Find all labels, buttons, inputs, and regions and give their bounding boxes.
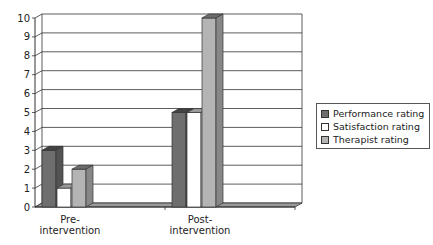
- x-axis-label: Pre-: [60, 214, 80, 225]
- svg-text:3: 3: [24, 145, 30, 156]
- y-axis-ticks: 012345678910: [17, 13, 35, 213]
- svg-text:0: 0: [24, 202, 30, 213]
- svg-text:5: 5: [24, 107, 30, 118]
- svg-text:9: 9: [24, 31, 30, 42]
- legend: Performance rating Satisfaction rating T…: [316, 103, 430, 149]
- legend-label: Therapist rating: [333, 134, 409, 145]
- svg-text:1: 1: [24, 183, 30, 194]
- svg-text:10: 10: [17, 13, 30, 24]
- svg-text:8: 8: [24, 50, 30, 61]
- svg-text:6: 6: [24, 88, 30, 99]
- legend-item-satisfaction: Satisfaction rating: [321, 120, 425, 133]
- x-axis-label: intervention: [40, 225, 101, 236]
- legend-swatch-icon: [321, 136, 329, 144]
- legend-label: Satisfaction rating: [333, 121, 420, 132]
- svg-text:2: 2: [24, 164, 30, 175]
- x-axis-label: Post-: [188, 214, 213, 225]
- x-axis-label: intervention: [170, 225, 231, 236]
- legend-item-therapist: Therapist rating: [321, 133, 425, 146]
- x-axis-labels: Pre-interventionPost-intervention: [40, 214, 231, 236]
- legend-swatch-icon: [321, 123, 329, 131]
- bar: [202, 14, 223, 207]
- svg-text:4: 4: [24, 126, 30, 137]
- legend-swatch-icon: [321, 110, 329, 118]
- legend-item-performance: Performance rating: [321, 107, 425, 120]
- legend-label: Performance rating: [333, 108, 424, 119]
- bars: [42, 14, 223, 207]
- svg-text:7: 7: [24, 69, 30, 80]
- bar: [72, 165, 93, 207]
